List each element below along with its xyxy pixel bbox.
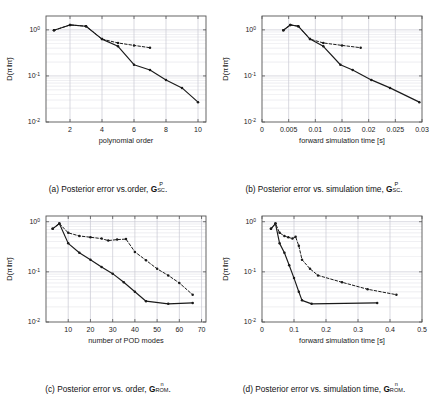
y-axis-label-b: D(π‖π̃) <box>221 57 230 81</box>
subplot-caption-a: (a) Posterior error vs.order, GPSC. <box>0 182 216 194</box>
plot-area-a: 10010-110-2246810polynomial orderD(π‖π̃) <box>0 0 216 158</box>
caption-text-b: (b) Posterior error vs. simulation time, <box>245 184 383 194</box>
x-tick-label-b-0: 0 <box>260 126 264 133</box>
y-tick-label-d-2: 10-2 <box>244 317 256 326</box>
subplot-panel-b: 10010-110-200.0050.010.0150.020.0250.03f… <box>216 0 432 200</box>
caption-period-a: . <box>165 184 167 194</box>
caption-subscript-d: ROM <box>390 388 403 394</box>
x-tick-label-b-5: 0.025 <box>387 126 405 133</box>
x-tick-label-a-1: 4 <box>100 126 104 133</box>
x-tick-label-d-0: 0 <box>260 326 264 333</box>
subplot-caption-d: (d) Posterior error vs. simulation time,… <box>216 382 432 394</box>
subplot-caption-c: (c) Posterior error vs. order, GnROM. <box>0 382 216 394</box>
x-tick-label-d-2: 0.2 <box>321 326 331 333</box>
y-tick-label-a-1: 10-1 <box>28 71 40 80</box>
caption-subscript-b: SC <box>393 188 401 194</box>
subplot-panel-d: 10010-110-200.10.20.30.40.5forward simul… <box>216 200 432 400</box>
x-axis-label-a: polynomial order <box>99 136 154 145</box>
y-tick-label-a-2: 10-2 <box>28 117 40 126</box>
chart-svg-a: 10010-110-2246810polynomial orderD(π‖π̃) <box>0 0 216 158</box>
y-tick-label-d-0: 100 <box>245 217 256 226</box>
y-tick-label-c-1: 10-1 <box>28 267 40 276</box>
caption-text-a: (a) Posterior error vs.order, <box>49 184 149 194</box>
x-tick-label-d-1: 0.1 <box>289 326 299 333</box>
x-tick-label-b-6: 0.03 <box>415 126 429 133</box>
x-tick-label-c-4: 50 <box>153 326 161 333</box>
caption-subscript-a: SC <box>157 188 165 194</box>
chart-svg-c: 10010-110-210203040506070number of POD m… <box>0 200 216 358</box>
plot-area-d: 10010-110-200.10.20.30.40.5forward simul… <box>216 200 432 358</box>
x-tick-label-c-1: 20 <box>87 326 95 333</box>
plot-area-b: 10010-110-200.0050.010.0150.020.0250.03f… <box>216 0 432 158</box>
y-tick-label-c-2: 10-2 <box>28 317 40 326</box>
caption-text-c: (c) Posterior error vs. order, <box>45 384 146 394</box>
caption-period-c: . <box>168 384 170 394</box>
x-tick-label-b-3: 0.015 <box>333 126 351 133</box>
y-tick-label-b-1: 10-1 <box>244 71 256 80</box>
x-tick-label-c-5: 60 <box>175 326 183 333</box>
x-tick-label-a-4: 10 <box>194 126 202 133</box>
x-tick-label-a-3: 8 <box>164 126 168 133</box>
x-tick-label-c-6: 70 <box>198 326 206 333</box>
plot-area-c: 10010-110-210203040506070number of POD m… <box>0 200 216 358</box>
x-tick-label-b-2: 0.01 <box>309 126 323 133</box>
figure-grid: 10010-110-2246810polynomial orderD(π‖π̃)… <box>0 0 432 400</box>
y-tick-label-a-0: 100 <box>29 25 40 34</box>
x-tick-label-d-3: 0.3 <box>353 326 363 333</box>
y-tick-label-b-2: 10-2 <box>244 117 256 126</box>
y-tick-label-c-0: 100 <box>29 217 40 226</box>
y-axis-label-d: D(π‖π̃) <box>221 257 230 281</box>
caption-period-d: . <box>403 384 405 394</box>
x-tick-label-d-4: 0.4 <box>385 326 395 333</box>
x-tick-label-b-4: 0.02 <box>362 126 376 133</box>
x-tick-label-c-0: 10 <box>64 326 72 333</box>
subplot-panel-c: 10010-110-210203040506070number of POD m… <box>0 200 216 400</box>
x-axis-label-d: forward simulation time [s] <box>299 336 385 345</box>
caption-script-c: nROM <box>155 382 168 393</box>
caption-period-b: . <box>400 184 402 194</box>
x-tick-label-c-3: 40 <box>131 326 139 333</box>
x-axis-label-c: number of POD modes <box>88 336 164 345</box>
caption-script-d: nROM <box>390 382 403 393</box>
chart-svg-b: 10010-110-200.0050.010.0150.020.0250.03f… <box>216 0 432 158</box>
subplot-panel-a: 10010-110-2246810polynomial orderD(π‖π̃)… <box>0 0 216 200</box>
caption-text-d: (d) Posterior error vs. simulation time, <box>243 384 381 394</box>
y-axis-label-c: D(π‖π̃) <box>5 257 14 281</box>
x-tick-label-a-0: 2 <box>68 126 72 133</box>
x-tick-label-d-5: 0.5 <box>417 326 427 333</box>
x-axis-label-b: forward simulation time [s] <box>299 136 385 145</box>
subplot-caption-b: (b) Posterior error vs. simulation time,… <box>216 182 432 194</box>
caption-subscript-c: ROM <box>155 388 168 394</box>
caption-script-a: PSC <box>157 182 165 193</box>
chart-svg-d: 10010-110-200.10.20.30.40.5forward simul… <box>216 200 432 358</box>
x-tick-label-b-1: 0.005 <box>280 126 298 133</box>
x-tick-label-a-2: 6 <box>132 126 136 133</box>
caption-script-b: PSC <box>393 182 401 193</box>
y-axis-label-a: D(π‖π̃) <box>5 57 14 81</box>
x-tick-label-c-2: 30 <box>109 326 117 333</box>
y-tick-label-b-0: 100 <box>245 25 256 34</box>
y-tick-label-d-1: 10-1 <box>244 267 256 276</box>
